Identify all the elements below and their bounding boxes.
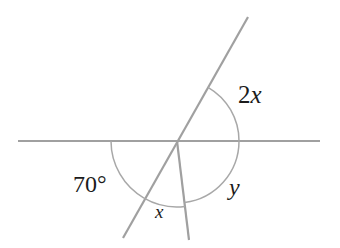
angle-2x-coefficient: 2 xyxy=(238,81,251,108)
angle-y-variable: y xyxy=(229,174,240,200)
geometry-figure: 2x 70° y x xyxy=(0,0,340,248)
degree-symbol-icon: ° xyxy=(97,171,107,197)
angle-label-x: x xyxy=(155,202,163,221)
angle-x-variable: x xyxy=(155,201,163,222)
angle-label-2x: 2x xyxy=(238,82,262,107)
arc-x xyxy=(144,198,185,207)
arc-70 xyxy=(111,141,144,198)
angle-70-value: 70 xyxy=(73,171,97,197)
geometry-canvas xyxy=(0,0,340,248)
vertical-ray xyxy=(177,141,189,240)
angle-label-y: y xyxy=(229,175,240,199)
arc-2x xyxy=(208,87,239,141)
angle-2x-variable: x xyxy=(251,81,262,108)
angle-label-70-degrees: 70° xyxy=(73,172,107,196)
